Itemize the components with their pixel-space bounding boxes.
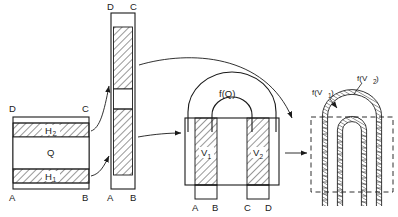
arrow-strip-top-to-horseshoe xyxy=(139,58,292,118)
tube-inner-edge-inside xyxy=(343,122,362,206)
label-foot-c: C xyxy=(244,202,251,213)
label-h1: H xyxy=(45,171,52,182)
tube-rungs xyxy=(322,122,381,202)
label-block-corner-d: D xyxy=(9,103,16,114)
label-fv2-close: ) xyxy=(376,74,379,83)
tube-outer-fill xyxy=(325,92,379,206)
label-block-corner-a: A xyxy=(9,192,16,203)
label-q: Q xyxy=(47,147,54,158)
arrow-strip-mid-to-horseshoe xyxy=(138,133,181,137)
label-v2-subscript: 2 xyxy=(260,153,264,160)
panel-horseshoe-solid: V 1 V 2 A B C D f(Q) xyxy=(185,72,279,213)
strip-segment-upper-hatched xyxy=(114,27,133,89)
panel-horseshoe-dashed-tubes: f(V 1 ) f(V 2 ) xyxy=(311,74,393,206)
tube-inner-fill xyxy=(340,119,364,206)
foot-ab xyxy=(195,185,217,199)
label-foot-b: B xyxy=(212,202,218,213)
label-strip-corner-c: C xyxy=(130,1,137,12)
label-h2: H xyxy=(45,125,52,136)
panel-tall-strip: D C A B xyxy=(107,1,137,204)
label-block-corner-b: B xyxy=(82,192,88,203)
label-fv1-close: ) xyxy=(331,88,334,97)
arrow-block-to-strip-lower xyxy=(91,156,109,176)
label-h2-subscript: 2 xyxy=(53,130,57,137)
label-fv1: f(V xyxy=(312,88,323,97)
foot-cd xyxy=(247,185,269,199)
label-h1-subscript: 1 xyxy=(53,176,57,183)
tube-outer-edge-outside xyxy=(322,90,381,206)
label-strip-corner-b: B xyxy=(130,192,136,203)
diagram-svg: H 2 Q H 1 D C A B D C A B xyxy=(0,0,398,217)
strip-segment-gap xyxy=(114,89,133,109)
label-v1-subscript: 1 xyxy=(208,153,212,160)
horseshoe-inner-arch xyxy=(212,97,252,132)
arrow-block-to-strip-upper xyxy=(91,86,109,131)
label-foot-d: D xyxy=(265,202,272,213)
label-foot-a: A xyxy=(192,202,199,213)
label-strip-corner-a: A xyxy=(107,192,114,203)
label-fv2: f(V xyxy=(357,74,368,83)
label-fq: f(Q) xyxy=(219,88,235,99)
figure-canvas: H 2 Q H 1 D C A B D C A B xyxy=(0,0,398,217)
strip-segment-lower-hatched xyxy=(114,109,133,175)
label-strip-corner-d: D xyxy=(107,1,114,12)
tube-outer-edge-inside xyxy=(328,94,377,206)
panel-cross-section-block: H 2 Q H 1 D C A B xyxy=(9,103,89,203)
label-block-corner-c: C xyxy=(82,103,89,114)
